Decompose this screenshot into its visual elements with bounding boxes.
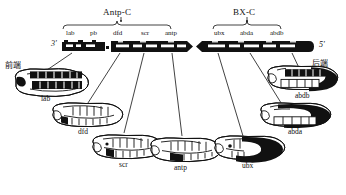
gene-label-lab: lab: [66, 30, 75, 37]
gene-label-scr: scr: [141, 30, 149, 37]
dna-gap-marker: [106, 46, 109, 49]
leader-ubx: [218, 53, 243, 136]
embryo-lab: [15, 69, 88, 97]
hox-colinearity-figure: Antp-C BX-C lab pb dfd scr antp ubx abda…: [0, 0, 346, 195]
embryo-label-abdb: abdb: [295, 92, 310, 100]
three-prime-label: 3': [51, 40, 57, 48]
anterior-label: 前端: [5, 62, 21, 70]
gene-label-pb: pb: [90, 30, 97, 37]
gene-label-abda: abda: [240, 30, 253, 37]
complex-title-bx-c: BX-C: [233, 8, 255, 17]
embryo-ubx: [215, 136, 285, 163]
leader-antp: [172, 53, 182, 136]
embryo-label-abda: abda: [288, 128, 302, 136]
embryo-abda: [261, 103, 331, 128]
leader-dfd: [86, 53, 120, 106]
gene-label-dfd: dfd: [113, 30, 122, 37]
gene-label-abdb: abdb: [270, 30, 284, 37]
posterior-label: 后端: [312, 60, 328, 68]
dna-bar-antpc-right: [111, 40, 193, 52]
leader-scr: [124, 53, 144, 133]
complex-title-antp-c: Antp-C: [103, 8, 131, 17]
embryo-label-antp: antp: [174, 164, 187, 172]
embryo-label-scr: scr: [119, 161, 128, 169]
embryo-abdb: [268, 66, 338, 91]
dna-bar-antpc-left: [62, 40, 105, 51]
embryo-label-lab: lab: [41, 95, 50, 103]
antp-c-bracket: [63, 17, 171, 29]
embryo-label-ubx: ubx: [242, 162, 253, 170]
chromosome-bars: [62, 40, 314, 52]
bx-c-bracket: [213, 17, 281, 29]
embryo-antp: [151, 138, 221, 162]
gene-label-ubx: ubx: [214, 30, 225, 37]
embryo-label-dfd: dfd: [78, 128, 88, 136]
dna-bar-bxc: [196, 40, 314, 52]
gene-label-antp: antp: [165, 30, 177, 37]
embryo-dfd: [53, 103, 123, 127]
five-prime-label: 5': [319, 41, 325, 49]
